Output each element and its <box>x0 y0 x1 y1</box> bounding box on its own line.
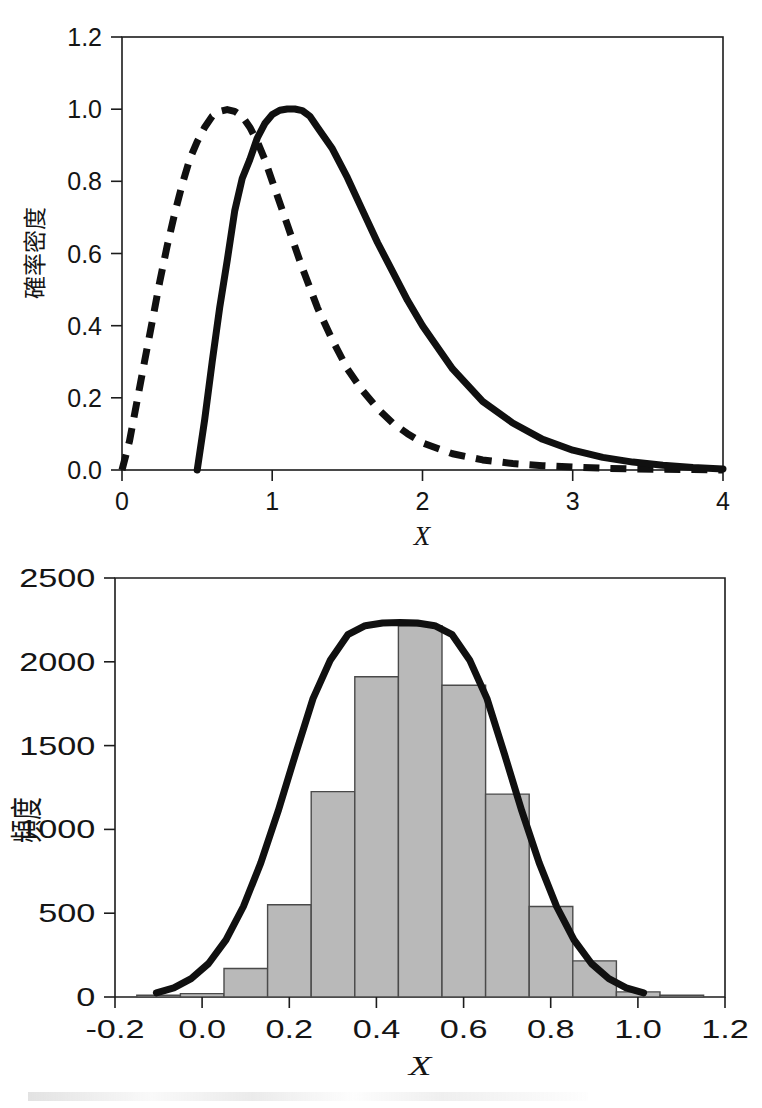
bottom-xtick-label-4: 0.6 <box>440 1015 488 1043</box>
top-xtick-label-1: 1 <box>265 487 279 515</box>
bottom-ytick-label-1: 500 <box>38 900 95 928</box>
hist-bar <box>268 905 312 997</box>
top-xtick-label-2: 2 <box>416 487 430 515</box>
bottom-y-ticks <box>104 578 115 997</box>
top-x-ticks <box>122 470 723 481</box>
bottom-xtick-label-3: 0.4 <box>353 1015 401 1043</box>
bottom-xtick-label-2: 0.2 <box>265 1015 313 1043</box>
top-ytick-label-0: 0.0 <box>67 456 102 484</box>
hist-bar <box>311 792 355 997</box>
top-ytick-label-4: 0.8 <box>67 167 102 195</box>
bottom-ytick-label-0: 0 <box>76 983 95 1011</box>
bottom-xtick-label-5: 0.8 <box>527 1015 575 1043</box>
top-x-axis-title: X <box>413 521 432 551</box>
hist-bar <box>355 677 399 997</box>
hist-bar <box>442 685 486 997</box>
top-ytick-label-6: 1.2 <box>67 23 102 51</box>
top-ytick-label-3: 0.6 <box>67 240 102 268</box>
hist-bar <box>660 995 704 997</box>
hist-bar <box>486 794 530 997</box>
figure-page: 0.0 0.2 0.4 0.6 0.8 1.0 1.2 0 1 2 3 4 X … <box>0 0 762 1108</box>
bottom-ytick-label-4: 2000 <box>19 648 95 676</box>
top-ytick-label-2: 0.4 <box>67 312 102 340</box>
hist-bar <box>398 626 442 997</box>
top-xtick-label-4: 4 <box>716 487 730 515</box>
top-ytick-label-5: 1.0 <box>67 95 102 123</box>
bottom-y-axis-title: 頻度 <box>9 797 47 844</box>
bottom-x-ticks <box>115 997 725 1008</box>
bottom-ytick-label-3: 1500 <box>19 732 95 760</box>
top-y-ticks <box>111 37 122 470</box>
top-solid-density-curve <box>197 109 723 470</box>
scan-artifact <box>28 1092 588 1101</box>
hist-bar <box>180 994 224 997</box>
top-dashed-density-curve <box>122 110 723 470</box>
bottom-xtick-label-6: 1.0 <box>614 1015 662 1043</box>
bottom-xtick-label-1: 0.0 <box>178 1015 226 1043</box>
hist-bar <box>224 969 268 998</box>
bottom-x-axis-title: X <box>406 1051 432 1081</box>
bottom-ytick-label-5: 2500 <box>19 564 95 592</box>
top-xtick-label-3: 3 <box>566 487 580 515</box>
bottom-chart-panel: 0 500 1000 1500 2000 2500 -0.2 0.0 0.2 0… <box>0 552 762 1108</box>
top-chart-panel: 0.0 0.2 0.4 0.6 0.8 1.0 1.2 0 1 2 3 4 X … <box>0 0 762 552</box>
top-xtick-label-0: 0 <box>115 487 129 515</box>
top-chart-svg: 0.0 0.2 0.4 0.6 0.8 1.0 1.2 0 1 2 3 4 X … <box>0 0 762 552</box>
top-ytick-label-1: 0.2 <box>67 384 102 412</box>
bottom-chart-svg: 0 500 1000 1500 2000 2500 -0.2 0.0 0.2 0… <box>0 552 762 1108</box>
bottom-xtick-label-0: -0.2 <box>85 1015 144 1043</box>
bottom-xtick-label-7: 1.2 <box>701 1015 749 1043</box>
top-plot-frame <box>122 37 723 470</box>
top-y-axis-title: 確率密度 <box>22 207 48 299</box>
